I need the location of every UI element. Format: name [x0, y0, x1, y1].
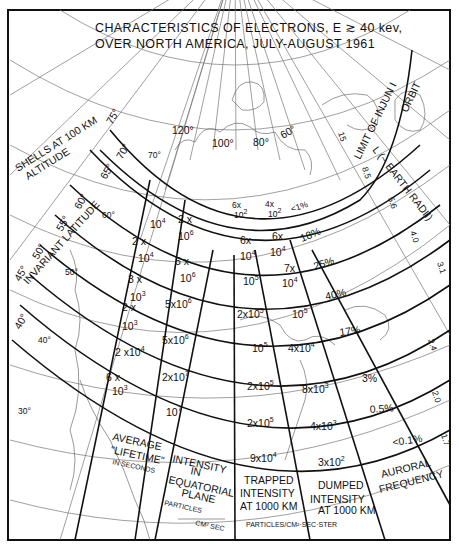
- svg-text:2 x: 2 x: [122, 301, 137, 313]
- svg-text:8x103: 8x103: [302, 382, 329, 395]
- svg-text:80°: 80°: [253, 136, 269, 148]
- svg-text:2 x: 2 x: [132, 235, 147, 247]
- svg-text:AT 1000 KM: AT 1000 KM: [240, 500, 297, 512]
- svg-text:100°: 100°: [212, 137, 234, 149]
- svg-text:5 x: 5 x: [175, 255, 190, 267]
- svg-text:70°: 70°: [148, 150, 161, 160]
- svg-text:2 x104: 2 x104: [115, 345, 145, 358]
- svg-text:TRAPPED: TRAPPED: [244, 474, 294, 486]
- svg-text:0.5%: 0.5%: [369, 401, 394, 415]
- trapped-header: TRAPPED INTENSITY AT 1000 KM: [240, 474, 297, 512]
- svg-text:6 x: 6 x: [106, 371, 121, 383]
- svg-text:7x: 7x: [284, 262, 296, 274]
- units-footer: PARTICLES/CM²·SEC·STER: [246, 521, 337, 528]
- svg-text:5x106: 5x106: [162, 333, 189, 346]
- svg-text:4x: 4x: [265, 199, 275, 209]
- svg-text:6x: 6x: [232, 200, 242, 210]
- svg-text:2x105: 2x105: [247, 416, 274, 429]
- title-line-2: OVER NORTH AMERICA, JULY-AUGUST 1961: [95, 37, 375, 51]
- electron-characteristics-map: CHARACTERISTICS OF ELECTRONS, E ≳ 40 kev…: [0, 0, 459, 546]
- svg-text:30°: 30°: [18, 406, 31, 416]
- title-line-1: CHARACTERISTICS OF ELECTRONS, E ≳ 40 kev…: [95, 21, 402, 35]
- svg-text:3%: 3%: [362, 372, 377, 384]
- svg-text:4x103: 4x103: [310, 419, 337, 432]
- svg-text:120°: 120°: [172, 124, 194, 136]
- svg-text:3 x: 3 x: [128, 273, 143, 285]
- svg-text:2 x: 2 x: [178, 213, 193, 225]
- svg-text:50°: 50°: [65, 267, 78, 277]
- svg-text:DUMPED: DUMPED: [318, 479, 364, 491]
- svg-text:5x106: 5x106: [165, 297, 192, 310]
- svg-text:3x102: 3x102: [318, 455, 345, 468]
- svg-text:2x105: 2x105: [247, 379, 274, 392]
- svg-text:4x104: 4x104: [288, 341, 315, 354]
- svg-text:AT 1000 KM: AT 1000 KM: [318, 504, 375, 516]
- svg-text:INTENSITY: INTENSITY: [240, 487, 295, 499]
- svg-text:9x104: 9x104: [250, 451, 277, 464]
- svg-text:2x105: 2x105: [237, 307, 264, 320]
- svg-text:40°: 40°: [38, 335, 51, 345]
- svg-text:60°: 60°: [102, 210, 115, 220]
- svg-text:2x107: 2x107: [162, 370, 189, 383]
- svg-text:6x: 6x: [272, 230, 284, 242]
- svg-text:6x: 6x: [240, 234, 252, 246]
